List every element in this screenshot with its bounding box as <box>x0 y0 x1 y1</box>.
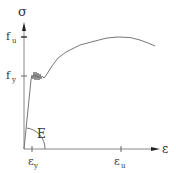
x-axis-label: ε <box>162 142 168 156</box>
modulus-label: E <box>37 127 46 141</box>
ey-label-sub: y <box>33 162 38 170</box>
fu-label: f <box>6 30 11 43</box>
y-axis-label: σ <box>18 4 27 19</box>
eu-label-sub: u <box>121 162 126 170</box>
stress-strain-diagram: σ ε f u f y ε y ε u E <box>0 0 176 173</box>
y-axis-arrow-icon <box>22 22 26 31</box>
eu-label: ε <box>114 155 120 168</box>
fu-label-sub: u <box>12 37 17 45</box>
x-axis-arrow-icon <box>151 147 160 151</box>
fy-label-sub: y <box>11 76 16 84</box>
fy-label: f <box>6 69 11 82</box>
